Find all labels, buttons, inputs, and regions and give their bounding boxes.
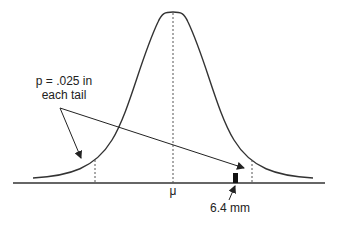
marker-value-label: 6.4 mm bbox=[205, 201, 255, 215]
tail-label-line2: each tail bbox=[22, 88, 106, 102]
mean-label: μ bbox=[166, 184, 180, 198]
arrow-left-tail bbox=[60, 108, 81, 158]
tail-label-line1: p = .025 in bbox=[22, 74, 106, 88]
arrow-right-tail bbox=[60, 108, 244, 168]
tail-probability-label: p = .025 in each tail bbox=[22, 74, 106, 102]
measurement-marker bbox=[233, 173, 238, 183]
arrow-marker bbox=[229, 186, 235, 200]
